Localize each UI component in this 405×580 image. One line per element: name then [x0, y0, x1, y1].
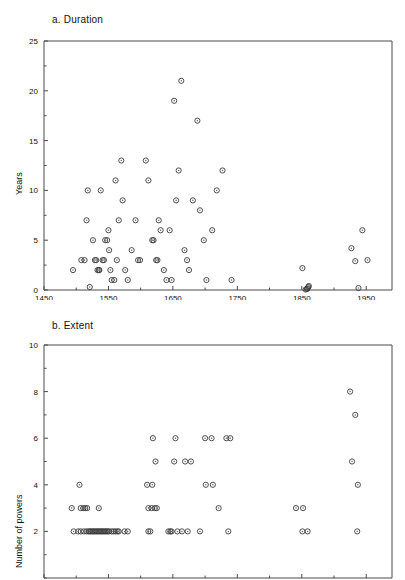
panel-b-y-tick-label: 6 [34, 434, 39, 443]
data-point-center [175, 437, 177, 439]
panel-b-y-tick-label: 2 [34, 527, 39, 536]
data-point-center [308, 285, 310, 287]
data-point-center [181, 80, 183, 82]
data-point-center [192, 200, 194, 202]
data-point-center [212, 484, 214, 486]
panel-b-y-tick-label: 4 [34, 481, 39, 490]
data-point-center [145, 160, 147, 162]
data-point-center [199, 531, 201, 533]
data-point-center [166, 279, 168, 281]
data-point-center [175, 200, 177, 202]
data-point-center [118, 531, 120, 533]
data-point-center [98, 507, 100, 509]
data-point-center [124, 269, 126, 271]
data-point-center [116, 259, 118, 261]
data-point-center [228, 531, 230, 533]
data-point-center [351, 247, 353, 249]
data-point-center [229, 437, 231, 439]
data-point-center [358, 287, 360, 289]
data-point-center [127, 531, 128, 533]
data-point-center [231, 279, 233, 281]
data-point-center [86, 507, 88, 509]
data-point-center [103, 259, 105, 261]
data-point-center [171, 279, 173, 281]
data-point-center [169, 229, 171, 231]
data-point-center [362, 229, 364, 231]
data-point-center [170, 531, 172, 533]
figure-two-panel-scatter: a. Duration Years 1450155016501750185019… [0, 0, 405, 580]
data-point-center [355, 414, 357, 416]
data-point-center [302, 267, 304, 269]
data-point-center [163, 269, 165, 271]
data-point-center [302, 507, 304, 509]
data-point-center [302, 531, 304, 533]
data-point-center [173, 461, 175, 463]
data-point-center [188, 269, 190, 271]
panel-a-y-tick-label: 5 [34, 236, 39, 245]
data-point-center [173, 100, 175, 102]
data-point-center [211, 229, 213, 231]
data-point-center [205, 484, 207, 486]
data-point-center [108, 229, 110, 231]
data-point-center [108, 249, 110, 251]
data-point-center [203, 239, 205, 241]
data-point-center [121, 160, 123, 162]
panel-b-points [69, 389, 360, 534]
panel-b-frame [44, 345, 392, 578]
data-point-center [307, 531, 309, 533]
data-point-center [186, 259, 188, 261]
data-point-center [127, 279, 128, 281]
data-point-center [216, 190, 218, 192]
data-point-center [107, 531, 109, 533]
data-point-center [71, 507, 73, 509]
panel-b-plot-area: 145015501650175018501950246810 [0, 300, 405, 580]
data-point-center [184, 461, 186, 463]
panel-b-y-tick-label: 10 [29, 341, 38, 350]
data-point-center [150, 531, 152, 533]
panel-a-frame [44, 41, 392, 290]
data-point-center [118, 220, 120, 222]
data-point-center [146, 484, 148, 486]
data-point-center [94, 259, 96, 261]
panel-duration: a. Duration Years 1450155016501750185019… [0, 0, 405, 300]
data-point-center [99, 269, 101, 271]
data-point-center [197, 120, 199, 122]
data-point-center [156, 507, 158, 509]
data-point-center [95, 259, 97, 261]
data-point-center [155, 461, 157, 463]
data-point-center [79, 484, 81, 486]
data-point-center [89, 286, 91, 288]
data-point-center [206, 279, 208, 281]
panel-extent: b. Extent Number of powers 1450155016501… [0, 300, 405, 580]
data-point-center [171, 531, 173, 533]
data-point-center [139, 259, 141, 261]
data-point-center [181, 531, 183, 533]
data-point-center [135, 220, 137, 222]
data-point-center [226, 437, 228, 439]
data-point-center [178, 170, 180, 172]
data-point-center [187, 531, 189, 533]
data-point-center [122, 200, 124, 202]
data-point-center [131, 249, 133, 251]
data-point-center [87, 190, 89, 192]
data-point-center [92, 239, 94, 241]
data-point-center [152, 484, 154, 486]
data-point-center [218, 507, 220, 509]
data-point-center [84, 259, 86, 261]
data-point-center [73, 531, 75, 533]
data-point-center [72, 269, 74, 271]
panel-a-y-tick-label: 25 [29, 37, 38, 46]
data-point-center [204, 437, 206, 439]
data-point-center [115, 180, 117, 182]
data-point-center [106, 239, 108, 241]
data-point-center [152, 239, 154, 241]
data-point-center [148, 180, 150, 182]
data-point-center [113, 279, 115, 281]
data-point-center [184, 249, 186, 251]
data-point-center [100, 190, 102, 192]
panel-a-y-tick-label: 10 [29, 186, 38, 195]
panel-a-y-tick-label: 15 [29, 137, 38, 146]
data-point-center [222, 170, 224, 172]
data-point-center [199, 210, 201, 212]
data-point-center [211, 437, 213, 439]
